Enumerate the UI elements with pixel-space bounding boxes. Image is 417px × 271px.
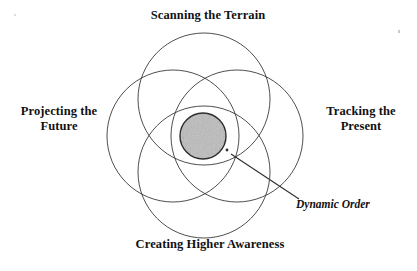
scan-speck-top-left: [14, 14, 16, 16]
label-projecting-the-future: Projecting the Future: [8, 104, 110, 133]
leader-dot: [226, 149, 229, 152]
dynamic-order-region: [178, 111, 228, 161]
label-creating-higher-awareness: Creating Higher Awareness: [110, 237, 310, 252]
scan-speck-top-right: [398, 30, 400, 33]
diagram-canvas: Scanning the Terrain Projecting the Futu…: [0, 0, 417, 271]
label-dynamic-order: Dynamic Order: [296, 197, 412, 211]
label-scanning-the-terrain: Scanning the Terrain: [118, 8, 298, 23]
venn-diagram-graphic: [0, 0, 417, 271]
label-tracking-the-present: Tracking the Present: [310, 104, 412, 133]
